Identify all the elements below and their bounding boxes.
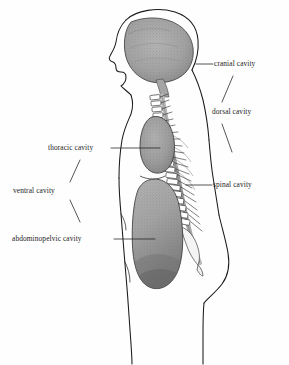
label-ventral-cavity: ventral cavity <box>13 186 55 195</box>
label-dorsal-cavity: dorsal cavity <box>212 107 251 116</box>
label-abdominopelvic-cavity: abdominopelvic cavity <box>12 234 82 243</box>
label-spinal-cavity: spinal cavity <box>213 180 252 189</box>
label-cranial-cavity: cranial cavity <box>214 59 255 68</box>
label-thoracic-cavity: thoracic cavity <box>48 143 93 152</box>
anatomy-figure: cranial cavity dorsal cavity spinal cavi… <box>0 0 289 365</box>
